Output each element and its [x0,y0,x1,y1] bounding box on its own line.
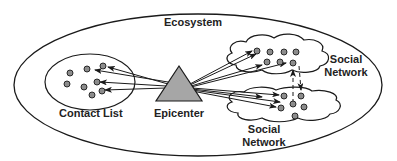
ecosystem-label: Ecosystem [164,16,222,28]
social-network-bottom-label-2: Network [242,136,286,148]
epicenter-triangle [156,66,202,101]
social-network-top-label: Social [330,53,362,65]
contact-list-label: Contact List [59,107,123,119]
ecosystem-diagram: Ecosystem Contact List Social Network So… [0,0,397,161]
epicenter-label: Epicenter [154,107,205,119]
social-network-top-cloud [227,34,329,74]
contact-list-nodes [64,63,106,98]
social-network-top-label-2: Network [324,66,368,78]
contact-list-boundary [45,54,135,110]
social-network-top-nodes [254,48,299,66]
social-network-bottom-label: Social [248,123,280,135]
social-network-bottom-nodes [278,93,307,119]
diagram-canvas: Ecosystem Contact List Social Network So… [0,0,397,161]
arrows-to-social-network-bottom [192,88,280,107]
